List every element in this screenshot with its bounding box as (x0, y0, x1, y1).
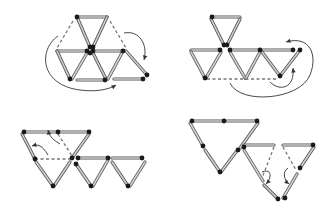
match-head (76, 156, 81, 161)
matchstick (205, 150, 220, 172)
dashed-match (283, 147, 296, 170)
dashed-match (57, 21, 73, 48)
matchstick (72, 53, 87, 79)
match-head (298, 166, 303, 171)
match-head (201, 144, 206, 149)
match-head (190, 119, 195, 124)
match-head (276, 197, 281, 202)
dashed-match (110, 21, 126, 48)
match-head (88, 51, 93, 56)
match-head (255, 119, 260, 124)
match-head (56, 130, 61, 135)
curved-arrow-icon (32, 142, 48, 155)
matchstick (190, 123, 203, 146)
match-head (242, 145, 247, 150)
match-head (228, 48, 233, 53)
match-head (70, 156, 75, 161)
matchstick (93, 160, 108, 186)
dashed-match (58, 134, 72, 156)
matchstick (262, 52, 280, 76)
matchstick (221, 152, 236, 172)
matchstick (246, 52, 260, 78)
curved-arrow-icon (284, 168, 289, 184)
matchstick (211, 19, 224, 45)
match-head (258, 48, 263, 53)
match-head (218, 48, 223, 53)
match-head (33, 157, 38, 162)
matchstick (57, 51, 70, 79)
match-head (89, 184, 94, 189)
panel-1 (46, 15, 150, 91)
match-head (75, 15, 80, 20)
match-head (68, 77, 73, 82)
match-head (140, 156, 145, 161)
match-head (22, 130, 27, 135)
matchstick (126, 51, 147, 75)
matchstick (230, 52, 245, 78)
matchstick (54, 162, 70, 186)
matchstick (130, 162, 145, 186)
matchstick (93, 53, 106, 79)
matchstick (191, 52, 205, 78)
match-head (103, 78, 108, 83)
matchstick (264, 185, 278, 199)
matchstick (108, 51, 123, 79)
curved-arrow-icon (230, 39, 313, 97)
matchstick (300, 147, 314, 168)
match-head (218, 170, 223, 175)
matchstick (22, 134, 35, 159)
match-head (51, 184, 56, 189)
matchstick (227, 19, 240, 45)
matchstick (244, 150, 263, 181)
matchstick (77, 17, 90, 47)
matchstick (36, 162, 53, 186)
match-head (121, 49, 126, 54)
curved-arrow-icon (124, 33, 147, 60)
match-head (225, 43, 230, 48)
match-head (222, 119, 227, 124)
panel-2 (191, 15, 313, 97)
dashed-match (262, 147, 274, 178)
matchstick (112, 162, 128, 186)
matchstick (280, 50, 300, 76)
matchstick-diagram (0, 0, 334, 218)
match-head (145, 73, 150, 78)
match-head (283, 196, 288, 201)
match-head (126, 184, 131, 189)
match-head (87, 130, 92, 135)
match-head (298, 48, 303, 53)
matchstick (93, 17, 107, 47)
match-head (141, 77, 146, 82)
matchstick (72, 134, 89, 158)
match-head (74, 162, 79, 167)
panel-3 (22, 130, 145, 189)
match-head (291, 48, 296, 53)
match-head (236, 148, 241, 153)
match-head (203, 76, 208, 81)
panel-4 (190, 119, 316, 202)
match-head (311, 143, 316, 148)
match-head (278, 74, 283, 79)
match-head (210, 15, 215, 20)
matchstick (206, 52, 221, 78)
match-head (106, 156, 111, 161)
matchstick (76, 164, 91, 186)
